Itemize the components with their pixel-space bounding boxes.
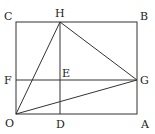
- label-C: C: [4, 10, 12, 23]
- label-A: A: [140, 118, 150, 131]
- label-H: H: [55, 7, 65, 20]
- label-E: E: [62, 67, 70, 80]
- rectangle-OABC: [16, 22, 137, 114]
- segment-OH: [16, 22, 60, 114]
- label-D: D: [56, 118, 65, 131]
- segment-HG: [60, 22, 137, 80]
- label-B: B: [140, 10, 148, 23]
- segment-OG: [16, 80, 137, 114]
- label-G: G: [140, 74, 149, 87]
- label-F: F: [4, 74, 12, 87]
- geometry-diagram: C H B F E G O D A: [0, 0, 155, 134]
- label-O: O: [5, 117, 14, 130]
